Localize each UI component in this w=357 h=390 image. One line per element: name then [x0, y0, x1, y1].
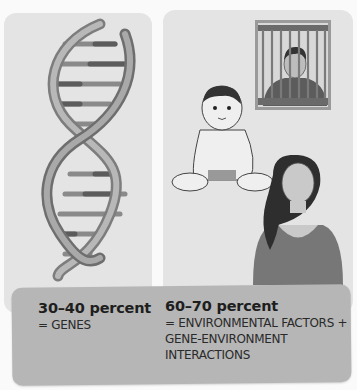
genes-caption: 30–40 percent = GENES	[38, 300, 151, 333]
genes-percent: 30–40 percent	[38, 300, 151, 317]
environment-caption: 60–70 percent = ENVIRONMENTAL FACTORS + …	[165, 298, 355, 363]
genes-label: = GENES	[38, 317, 151, 333]
environment-percent: 60–70 percent	[165, 298, 355, 315]
environment-label-line-1: = ENVIRONMENTAL FACTORS +	[165, 315, 355, 331]
environment-label-line-3: INTERACTIONS	[165, 347, 355, 363]
environment-label-line-2: GENE-ENVIRONMENT	[165, 331, 355, 347]
dna-helix-icon	[20, 14, 140, 284]
woman-icon	[248, 155, 348, 285]
